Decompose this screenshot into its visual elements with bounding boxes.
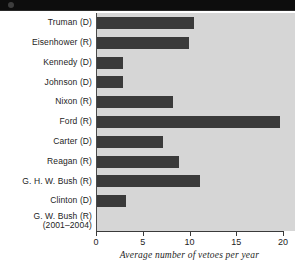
category-label: Johnson (D) (0, 78, 96, 88)
bar-row: Reagan (R) (0, 152, 295, 172)
category-label: G. H. W. Bush (R) (0, 177, 96, 187)
bar (97, 175, 200, 187)
x-axis-title: Average number of vetoes per year (96, 250, 283, 260)
bar-track (96, 72, 295, 92)
x-tick-label: 15 (231, 236, 241, 248)
bar (97, 195, 126, 207)
bar (97, 156, 179, 168)
x-axis-tick-labels: 05101520 (0, 236, 295, 249)
bar-row: Clinton (D) (0, 191, 295, 211)
bar-rows: Truman (D)Eisenhower (R)Kennedy (D)Johns… (0, 13, 295, 231)
bar-row: Ford (R) (0, 112, 295, 132)
x-tick-label: 10 (184, 236, 194, 248)
bar-track (96, 132, 295, 152)
bar (97, 96, 173, 108)
x-tick-label: 5 (140, 236, 145, 248)
x-tick-label: 20 (278, 236, 288, 248)
bar (97, 37, 189, 49)
bar-track (96, 191, 295, 211)
bar (97, 76, 123, 88)
bar-row: Nixon (R) (0, 92, 295, 112)
veto-bar-chart: Truman (D)Eisenhower (R)Kennedy (D)Johns… (0, 10, 295, 273)
bar (97, 116, 280, 128)
category-label: Clinton (D) (0, 196, 96, 206)
bar-row: Johnson (D) (0, 72, 295, 92)
bar-row: G. H. W. Bush (R) (0, 172, 295, 192)
bar-track (96, 211, 295, 231)
bar (97, 57, 123, 69)
bar-track (96, 33, 295, 53)
bar-track (96, 172, 295, 192)
bar-track (96, 152, 295, 172)
bar-track (96, 92, 295, 112)
bar-row: Truman (D) (0, 13, 295, 33)
bar-track (96, 112, 295, 132)
bar-track (96, 13, 295, 33)
category-label: Carter (D) (0, 137, 96, 147)
bar (97, 17, 194, 29)
category-label: Ford (R) (0, 117, 96, 127)
category-label: Eisenhower (R) (0, 38, 96, 48)
category-label: Reagan (R) (0, 157, 96, 167)
bar-row: G. W. Bush (R) (2001–2004) (0, 211, 295, 231)
bar (97, 136, 163, 148)
bar-track (96, 53, 295, 73)
category-label: Nixon (R) (0, 97, 96, 107)
bar-row: Carter (D) (0, 132, 295, 152)
category-label: Truman (D) (0, 18, 96, 28)
category-label: Kennedy (D) (0, 58, 96, 68)
bar-row: Eisenhower (R) (0, 33, 295, 53)
plot-area: Truman (D)Eisenhower (R)Kennedy (D)Johns… (0, 10, 295, 235)
bar-row: Kennedy (D) (0, 53, 295, 73)
category-label: G. W. Bush (R) (2001–2004) (0, 212, 96, 231)
x-tick-label: 0 (93, 236, 98, 248)
